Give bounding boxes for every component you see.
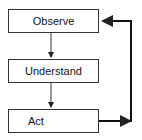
node-understand: Understand bbox=[8, 59, 99, 83]
node-observe: Observe bbox=[8, 9, 99, 33]
node-act-label: Act bbox=[28, 115, 44, 127]
feedback-loop-vertical bbox=[103, 21, 131, 122]
node-observe-label: Observe bbox=[33, 15, 75, 27]
node-understand-label: Understand bbox=[25, 65, 82, 77]
node-act: Act bbox=[8, 109, 99, 133]
